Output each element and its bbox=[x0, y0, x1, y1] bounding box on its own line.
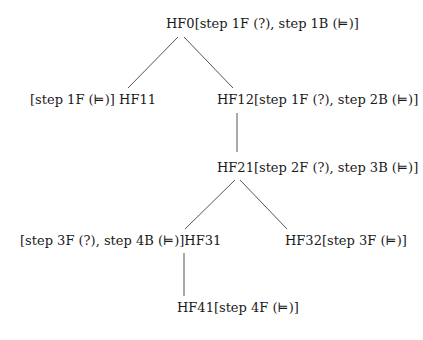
node-hf32: HF32[step 3F (⊨)] bbox=[285, 233, 407, 249]
edge-hf21-hf31 bbox=[185, 180, 235, 229]
edge-hf21-hf32 bbox=[240, 180, 287, 229]
node-hf21: HF21[step 2F (?), step 3B (⊨)] bbox=[217, 160, 418, 176]
node-hf11: [step 1F (⊨)] HF11 bbox=[30, 92, 156, 108]
node-hf41: HF41[step 4F (⊨)] bbox=[177, 300, 299, 316]
tree-diagram: HF0[step 1F (?), step 1B (⊨)] [step 1F (… bbox=[0, 0, 423, 340]
node-hf0: HF0[step 1F (?), step 1B (⊨)] bbox=[166, 16, 359, 32]
node-hf12: HF12[step 1F (?), step 2B (⊨)] bbox=[217, 92, 418, 108]
edge-hf0-hf12 bbox=[184, 37, 233, 88]
edge-hf0-hf11 bbox=[128, 37, 178, 88]
node-hf31: [step 3F (?), step 4B (⊨)]HF31 bbox=[20, 233, 221, 249]
